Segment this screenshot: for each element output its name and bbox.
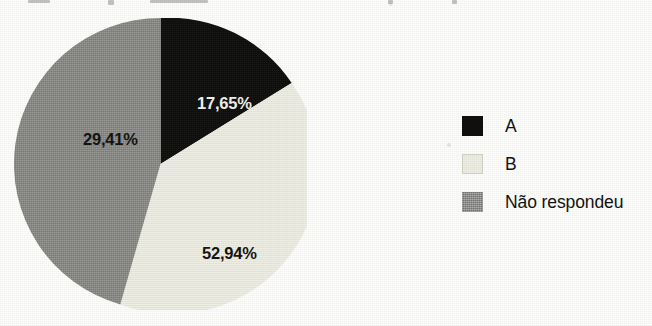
pie-label-b: 52,94% [202,244,257,263]
scan-artifact [447,143,451,147]
legend-item-a: A [462,107,648,145]
legend-swatch-nao-respondeu-icon [462,192,483,212]
legend-label-b: B [505,154,517,175]
pie-svg [14,18,307,310]
legend-label-nao-respondeu: Não respondeu [505,192,623,213]
pie-label-nao-respondeu: 29,41% [83,130,138,149]
chart-legend: A B Não respondeu [462,107,648,221]
legend-item-b: B [462,145,648,183]
legend-swatch-b-icon [462,154,483,174]
legend-swatch-a-icon [462,116,483,136]
cropped-title-ghost [0,0,652,9]
legend-item-nao-respondeu: Não respondeu [462,183,648,221]
legend-label-a: A [505,116,517,137]
pie-chart: 17,65% 29,41% 52,94% [0,0,400,326]
pie-graphic: 17,65% 29,41% 52,94% [14,18,307,310]
pie-label-a: 17,65% [197,94,252,113]
